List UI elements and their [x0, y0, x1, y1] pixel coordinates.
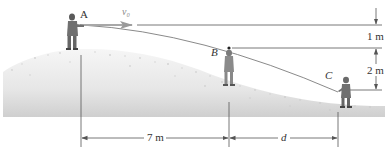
person-c-figure: [338, 77, 352, 108]
label-point-b: B: [211, 47, 218, 58]
diagram-canvas: A v₀ B C 1 m 2 m 7 m d: [0, 0, 388, 154]
label-point-c: C: [325, 70, 332, 81]
label-dim-1m: 1 m: [367, 31, 384, 42]
label-dim-2m: 2 m: [367, 65, 384, 76]
label-velocity: v₀: [122, 7, 130, 17]
label-dim-d: d: [281, 132, 287, 143]
snow-hill: [3, 49, 385, 117]
person-b-figure: [223, 50, 235, 86]
label-point-a: A: [80, 9, 88, 20]
point-b-marker: [227, 46, 230, 49]
label-dim-7m: 7 m: [147, 132, 164, 143]
